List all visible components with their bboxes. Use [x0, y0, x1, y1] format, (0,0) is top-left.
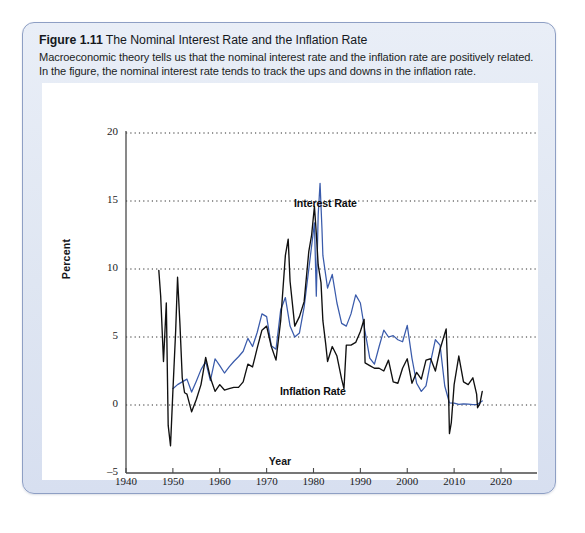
x-tick-label: 2000	[387, 475, 427, 487]
plot-area: Percent Year Interest Rate Inflation Rat…	[42, 83, 538, 480]
x-tick-label: 1970	[247, 475, 287, 487]
chart-svg	[42, 83, 538, 480]
y-tick-label: 20	[92, 125, 118, 137]
y-tick-label: 15	[92, 193, 118, 205]
y-tick-label: 10	[92, 261, 118, 273]
x-tick-label: 2010	[434, 475, 474, 487]
x-axis-label: Year	[220, 455, 340, 467]
annotation-inflation-rate: Inflation Rate	[280, 385, 346, 397]
figure-card: Figure 1.11 The Nominal Interest Rate an…	[22, 22, 556, 494]
y-tick-label: 5	[92, 329, 118, 341]
x-tick-label: 1960	[200, 475, 240, 487]
x-tick-label: 1950	[153, 475, 193, 487]
x-tick-label: 1990	[340, 475, 380, 487]
figure-title: Figure 1.11 The Nominal Interest Rate an…	[39, 32, 543, 48]
x-tick-label: 1980	[294, 475, 334, 487]
y-tick-label: 0	[92, 397, 118, 409]
chart-panel: Percent Year Interest Rate Inflation Rat…	[42, 83, 538, 480]
figure-title-text: The Nominal Interest Rate and the Inflat…	[106, 33, 367, 47]
figure-caption: Figure 1.11 The Nominal Interest Rate an…	[39, 32, 543, 79]
figure-number: Figure 1.11	[39, 33, 103, 47]
x-tick-label: 2020	[481, 475, 521, 487]
y-axis-label: Percent	[60, 229, 72, 289]
annotation-interest-rate: Interest Rate	[294, 197, 357, 209]
figure-subtitle: Macroeconomic theory tells us that the n…	[39, 50, 543, 79]
y-tick-label: –5	[92, 465, 118, 477]
